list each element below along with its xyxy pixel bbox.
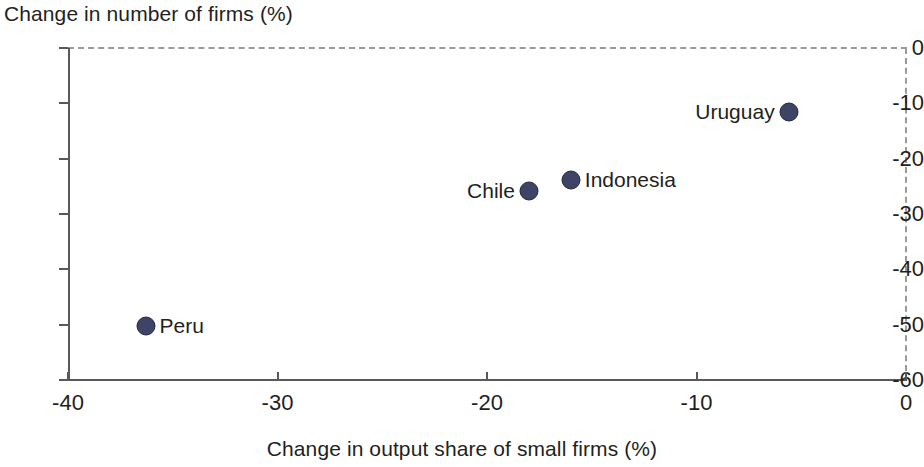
y-tick-mark — [59, 47, 68, 49]
data-point-label: Uruguay — [695, 100, 774, 124]
x-tick-label: 0 — [900, 390, 912, 416]
x-tick-label: -10 — [681, 390, 713, 416]
data-point-marker[interactable] — [519, 182, 538, 201]
data-point-label: Peru — [160, 314, 204, 338]
data-point-label: Indonesia — [585, 168, 676, 192]
y-tick-mark — [59, 268, 68, 270]
x-tick-label: -30 — [262, 390, 294, 416]
x-axis-title: Change in output share of small firms (%… — [0, 437, 924, 461]
y-tick-mark — [59, 324, 68, 326]
data-point-marker[interactable] — [561, 171, 580, 190]
data-point-label: Chile — [467, 179, 515, 203]
y-tick-mark — [59, 102, 68, 104]
data-point-marker[interactable] — [136, 317, 155, 336]
y-axis-title: Change in number of firms (%) — [4, 2, 293, 26]
y-tick-mark — [59, 158, 68, 160]
x-tick-label: -40 — [52, 390, 84, 416]
data-point-marker[interactable] — [779, 103, 798, 122]
scatter-chart: Change in number of firms (%) 0-10-20-30… — [0, 0, 924, 467]
x-tick-label: -20 — [471, 390, 503, 416]
y-tick-mark — [59, 213, 68, 215]
